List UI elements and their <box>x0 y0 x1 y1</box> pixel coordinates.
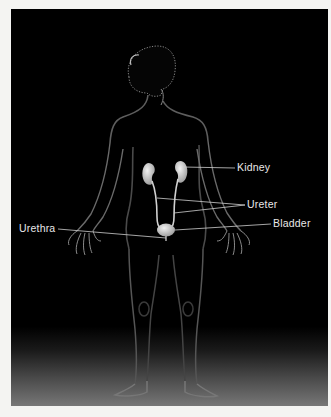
ureter-leader-line-2 <box>174 205 245 213</box>
urethra-label: Urethra <box>19 222 55 234</box>
human-body-figure <box>11 9 328 406</box>
bladder-label: Bladder <box>273 217 311 229</box>
urinary-system <box>142 161 187 241</box>
legs <box>115 249 217 397</box>
right-ureter <box>170 179 178 229</box>
bladder-organ <box>157 224 175 237</box>
left-arm <box>68 143 123 255</box>
kidney-label: Kidney <box>237 161 270 173</box>
left-ureter <box>152 181 161 229</box>
diagram-panel: Kidney Ureter Bladder Urethra <box>11 9 328 406</box>
head <box>128 46 175 105</box>
ureter-label: Ureter <box>247 198 277 210</box>
kidney-leader-line <box>183 167 235 168</box>
right-kidney <box>175 161 187 183</box>
